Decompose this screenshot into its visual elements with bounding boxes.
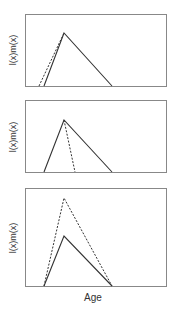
panel-top-frame bbox=[26, 15, 167, 87]
panel-bottom-frame bbox=[26, 189, 167, 287]
panel-bottom-ylabel: l(x)m(x) bbox=[8, 223, 18, 254]
panel-top-solid-line bbox=[44, 33, 112, 86]
panel-bottom: l(x)m(x) Age bbox=[8, 189, 167, 304]
panel-top-dashed-line bbox=[39, 33, 64, 86]
panel-middle-ylabel: l(x)m(x) bbox=[8, 122, 18, 153]
panel-middle-dashed-line bbox=[64, 120, 75, 172]
panel-top: l(x)m(x) bbox=[8, 15, 167, 87]
panel-bottom-dashed-line bbox=[44, 198, 112, 286]
figure: l(x)m(x) l(x)m(x) l(x)m(x) Age bbox=[0, 0, 173, 317]
panel-middle-frame bbox=[26, 101, 167, 173]
panel-bottom-solid-line bbox=[44, 236, 112, 286]
panel-top-ylabel: l(x)m(x) bbox=[8, 35, 18, 66]
x-axis-label: Age bbox=[84, 292, 102, 303]
panel-middle-solid-line bbox=[44, 120, 112, 172]
panel-middle: l(x)m(x) bbox=[8, 101, 167, 173]
